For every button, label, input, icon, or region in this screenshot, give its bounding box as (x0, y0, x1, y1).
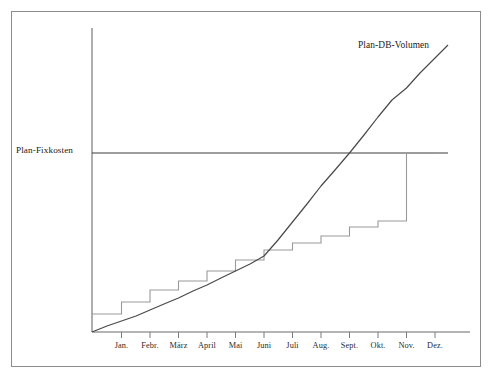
x-label-jan: Jan. (115, 341, 129, 350)
curve-series-plan-db-volumen (92, 45, 448, 332)
x-label-maerz: März (170, 341, 188, 350)
x-label-febr: Febr. (141, 341, 158, 350)
chart-plot-area (0, 0, 493, 380)
chart-container: Plan-Fixkosten Plan-DB-Volumen Jan. Febr… (0, 0, 493, 380)
x-label-mai: Mai (229, 341, 243, 350)
x-label-sept: Sept. (341, 341, 358, 350)
x-label-aug: Aug. (313, 341, 330, 350)
plan-fixkosten-label: Plan-Fixkosten (16, 145, 73, 155)
plan-db-volumen-label: Plan-DB-Volumen (358, 40, 429, 50)
x-label-okt: Okt. (371, 341, 386, 350)
x-label-nov: Nov. (398, 341, 414, 350)
x-label-april: April (198, 341, 216, 350)
x-label-dez: Dez. (427, 341, 443, 350)
x-label-juni: Juni (257, 341, 271, 350)
step-series-plan-fixkosten-kumuliert (92, 153, 435, 314)
x-axis-ticks (122, 332, 436, 338)
x-label-juli: Juli (286, 341, 298, 350)
